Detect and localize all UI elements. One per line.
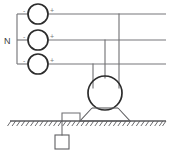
earth-electrode bbox=[55, 135, 69, 149]
ground-hatching bbox=[8, 121, 167, 126]
dropper-wires bbox=[93, 14, 119, 88]
ground-surface bbox=[8, 121, 167, 126]
schematic-canvas: - + - + - + N bbox=[0, 0, 176, 153]
neutral-conductor-label: N bbox=[4, 36, 11, 46]
electrical-schematic: - + - + - + N bbox=[0, 0, 176, 153]
source-bottom-plus-label: + bbox=[50, 57, 54, 64]
source-middle-plus-label: + bbox=[50, 33, 54, 40]
source-middle-minus-label: - bbox=[23, 33, 26, 40]
source-top-plus-label: + bbox=[50, 7, 54, 14]
source-top-circle bbox=[28, 4, 48, 24]
supply-bus-lines bbox=[48, 14, 166, 64]
rotating-machine-symbol bbox=[88, 76, 122, 110]
source-middle-circle bbox=[28, 30, 48, 50]
source-top-minus-label: - bbox=[23, 7, 26, 14]
source-bottom-minus-label: - bbox=[23, 57, 26, 64]
earth-bond-wire bbox=[62, 113, 80, 135]
source-symbols bbox=[28, 4, 48, 74]
earth-conductor bbox=[62, 113, 80, 135]
source-bottom-circle bbox=[28, 54, 48, 74]
